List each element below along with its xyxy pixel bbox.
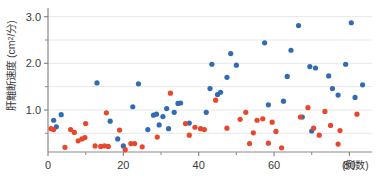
scatter-plot-svg: 1.02.03.0020406080(例数)	[0, 0, 379, 183]
data-point-red	[238, 117, 243, 122]
data-point-blue	[59, 112, 64, 117]
data-point-blue	[313, 65, 318, 70]
data-point-blue	[108, 119, 113, 124]
data-point-blue	[335, 92, 340, 97]
data-point-red	[104, 110, 109, 115]
data-point-red	[335, 141, 340, 146]
data-point-blue	[145, 127, 150, 132]
y-axis-tick-label: 1.0	[26, 104, 41, 116]
data-point-red	[106, 144, 111, 149]
data-point-blue	[343, 62, 348, 67]
data-point-red	[270, 120, 275, 125]
data-point-blue	[204, 110, 209, 115]
data-point-red	[273, 129, 278, 134]
data-point-red	[337, 128, 342, 133]
data-point-blue	[164, 106, 169, 111]
data-point-blue	[178, 100, 183, 105]
data-point-red	[192, 125, 197, 130]
data-point-red	[260, 116, 265, 121]
data-point-blue	[266, 102, 271, 107]
y-axis-tick-label: 2.0	[26, 57, 41, 69]
data-point-blue	[307, 64, 312, 69]
x-axis-unit-label: (例数)	[342, 159, 369, 171]
data-point-blue	[326, 73, 331, 78]
data-point-blue	[360, 82, 365, 87]
data-point-red	[298, 114, 303, 119]
series-blue	[51, 20, 365, 148]
data-point-red	[328, 123, 333, 128]
data-point-blue	[352, 95, 357, 100]
data-point-red	[213, 98, 218, 103]
data-point-red	[168, 91, 173, 96]
data-point-red	[132, 141, 137, 146]
x-axis-tick-label: 0	[45, 159, 51, 171]
data-point-blue	[94, 80, 99, 85]
data-point-blue	[172, 110, 177, 115]
scatter-chart-figure: 肝離断速度 (cm2/分) 1.02.03.0020406080(例数)	[0, 0, 379, 183]
x-axis-tick-label: 20	[117, 159, 129, 171]
data-point-red	[311, 126, 316, 131]
data-point-blue	[166, 126, 171, 131]
data-point-blue	[51, 118, 56, 123]
data-point-blue	[160, 114, 165, 119]
data-point-red	[279, 145, 284, 150]
data-point-blue	[209, 62, 214, 67]
data-point-red	[254, 118, 259, 123]
data-point-blue	[296, 23, 301, 28]
data-point-blue	[349, 20, 354, 25]
data-point-blue	[157, 122, 162, 127]
data-point-red	[83, 121, 88, 126]
x-axis-tick-label: 40	[193, 159, 205, 171]
data-point-red	[247, 141, 252, 146]
data-point-red	[140, 144, 145, 149]
data-point-blue	[330, 86, 335, 91]
series-red	[48, 91, 359, 153]
data-point-blue	[224, 75, 229, 80]
data-point-red	[82, 135, 87, 140]
data-point-red	[183, 121, 188, 126]
x-axis-tick-label: 60	[268, 159, 280, 171]
data-point-red	[202, 127, 207, 132]
data-point-blue	[154, 112, 159, 117]
data-point-blue	[262, 40, 267, 45]
data-point-red	[72, 130, 77, 135]
data-point-blue	[115, 136, 120, 141]
data-point-blue	[288, 48, 293, 53]
data-point-red	[62, 145, 67, 150]
data-point-red	[305, 105, 310, 110]
data-point-blue	[207, 86, 212, 91]
data-point-blue	[234, 63, 239, 68]
data-point-blue	[136, 81, 141, 86]
data-point-red	[187, 133, 192, 138]
data-point-red	[317, 133, 322, 138]
data-point-red	[224, 126, 229, 131]
data-point-red	[123, 147, 128, 152]
data-point-red	[251, 130, 256, 135]
data-point-blue	[228, 51, 233, 56]
y-axis-tick-label: 3.0	[26, 11, 41, 23]
data-point-red	[51, 127, 56, 132]
data-point-blue	[281, 99, 286, 104]
data-point-blue	[285, 74, 290, 79]
data-point-red	[155, 134, 160, 139]
data-point-red	[266, 141, 271, 146]
data-point-red	[322, 109, 327, 114]
data-point-blue	[218, 90, 223, 95]
data-point-red	[92, 143, 97, 148]
data-point-blue	[130, 104, 135, 109]
data-point-red	[354, 112, 359, 117]
data-point-red	[243, 110, 248, 115]
data-point-red	[117, 127, 122, 132]
